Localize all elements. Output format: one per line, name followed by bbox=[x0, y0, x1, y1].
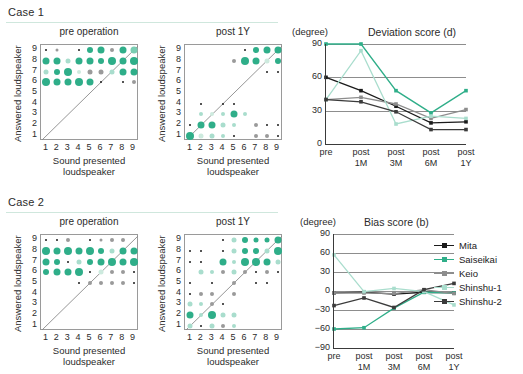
data-point bbox=[199, 133, 204, 138]
data-point bbox=[231, 111, 238, 118]
y-tick: 3 bbox=[170, 297, 181, 307]
y-tick-label: −30 bbox=[306, 304, 330, 314]
x-category-top: post bbox=[380, 147, 412, 158]
panel-title-case2-pre: pre operation bbox=[40, 216, 138, 227]
x-category-label: post1Y bbox=[438, 351, 470, 373]
x-tick: 5 bbox=[228, 332, 238, 342]
legend-swatch bbox=[434, 240, 454, 250]
x-tick: 3 bbox=[62, 332, 72, 342]
data-point bbox=[254, 134, 258, 138]
data-point bbox=[198, 122, 205, 129]
data-point bbox=[99, 239, 102, 242]
data-point bbox=[64, 68, 72, 76]
data-point bbox=[133, 282, 135, 284]
case-1-divider bbox=[6, 22, 278, 23]
series-legend: MitaSaiseikaiKeioShinshu-1Shinshu-2 bbox=[434, 238, 522, 316]
data-point bbox=[67, 261, 69, 263]
data-point bbox=[42, 78, 50, 86]
data-point bbox=[75, 78, 83, 86]
scatter-panel-case1-pre: pre operationAnswered loudspeaker9876543… bbox=[4, 26, 144, 184]
y-tick-label: 0 bbox=[306, 285, 330, 295]
data-point bbox=[264, 249, 269, 254]
y-tick: 3 bbox=[26, 107, 37, 117]
data-point bbox=[130, 248, 137, 255]
x-axis-label-case2-post: Sound presentedloudspeaker bbox=[176, 345, 290, 367]
data-point bbox=[189, 250, 191, 252]
data-point bbox=[277, 271, 279, 273]
chart-title-bias-score: Bias score (b) bbox=[364, 216, 429, 228]
x-axis-label-line2: loudspeaker bbox=[32, 356, 146, 367]
series-marker bbox=[429, 111, 433, 115]
data-point bbox=[77, 259, 82, 264]
data-point bbox=[43, 258, 50, 265]
data-point bbox=[221, 123, 226, 128]
data-point bbox=[110, 270, 114, 274]
data-point bbox=[130, 57, 138, 65]
data-point bbox=[252, 58, 259, 65]
y-tick: 4 bbox=[26, 287, 37, 297]
x-axis-line bbox=[325, 144, 466, 145]
x-category-label: pre bbox=[310, 147, 342, 169]
data-point bbox=[199, 313, 203, 317]
data-point bbox=[109, 69, 114, 74]
data-point bbox=[199, 112, 203, 116]
x-category-label: post3M bbox=[378, 351, 410, 373]
x-category-top: post bbox=[348, 351, 380, 362]
plot-frame-case2-post bbox=[184, 234, 282, 330]
x-category-bottom: 3M bbox=[378, 362, 410, 373]
panel-title-case1-post: post 1Y bbox=[184, 26, 282, 37]
data-point bbox=[98, 58, 104, 64]
x-tick: 3 bbox=[206, 142, 216, 152]
data-point bbox=[110, 238, 114, 242]
series-line-mita bbox=[326, 77, 466, 123]
data-point bbox=[121, 270, 125, 274]
x-tick: 2 bbox=[195, 332, 205, 342]
data-point bbox=[221, 324, 225, 328]
legend-label: Keio bbox=[459, 268, 478, 279]
y-tick-label: 90 bbox=[304, 38, 322, 48]
data-point bbox=[108, 258, 116, 266]
y-tick: 8 bbox=[26, 54, 37, 64]
data-point bbox=[233, 135, 235, 137]
plot-frame-case1-post bbox=[184, 44, 282, 140]
data-point bbox=[263, 258, 270, 265]
data-point bbox=[210, 270, 214, 274]
data-point bbox=[42, 247, 50, 255]
data-point bbox=[241, 57, 249, 65]
x-tick: 1 bbox=[184, 332, 194, 342]
data-point bbox=[200, 261, 202, 263]
data-point bbox=[130, 47, 137, 54]
series-marker bbox=[429, 128, 433, 132]
data-point bbox=[209, 122, 216, 129]
data-point bbox=[242, 248, 248, 254]
y-tick: 1 bbox=[26, 319, 37, 329]
y-axis-line bbox=[325, 44, 326, 144]
legend-swatch bbox=[434, 268, 454, 278]
data-point bbox=[45, 239, 47, 241]
series-marker bbox=[362, 296, 366, 300]
y-tick: 7 bbox=[26, 255, 37, 265]
series-marker bbox=[392, 287, 396, 291]
series-marker bbox=[359, 89, 363, 93]
x-axis-line bbox=[333, 348, 454, 349]
y-tick: 6 bbox=[26, 265, 37, 275]
data-point bbox=[65, 79, 72, 86]
data-point bbox=[211, 282, 213, 284]
data-point bbox=[130, 68, 137, 75]
data-point bbox=[255, 282, 257, 284]
y-tick: 6 bbox=[170, 265, 181, 275]
x-category-label: post1M bbox=[345, 147, 377, 169]
x-category-bottom: 6M bbox=[415, 158, 447, 169]
data-point bbox=[275, 58, 281, 64]
data-point bbox=[133, 271, 135, 273]
data-point bbox=[277, 124, 279, 126]
data-point bbox=[64, 247, 72, 255]
x-category-bottom: 1Y bbox=[450, 158, 482, 169]
x-tick: 7 bbox=[106, 332, 116, 342]
data-point bbox=[221, 313, 226, 318]
y-tick-label: 30 bbox=[304, 105, 322, 115]
series-marker bbox=[422, 288, 426, 292]
legend-item-shinshu-2: Shinshu-2 bbox=[434, 294, 522, 308]
legend-marker bbox=[442, 271, 447, 276]
data-point bbox=[54, 259, 60, 265]
